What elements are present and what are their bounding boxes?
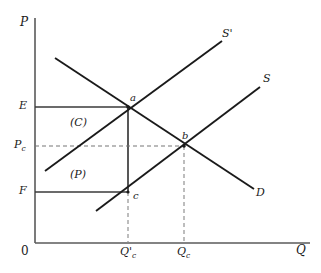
supply-demand-diagram: P Q 0 E Pc F Q'c Qc S' S D a b c (C) (P) [0,0,321,273]
curve-label-supply-shifted: S' [222,28,233,39]
price-tick-Pc: Pc [14,139,26,153]
price-tick-E: E [19,100,27,111]
marker-point-b [182,144,186,148]
price-tick-Pc-subscript: c [21,144,25,153]
y-axis-label: P [20,16,28,28]
area-label-consumer: (C) [70,117,87,128]
diagram-canvas [0,0,321,273]
quantity-tick-Qc-subscript: c [186,251,190,260]
curve-label-supply: S [263,73,271,84]
point-label-b: b [182,131,188,141]
marker-point-c [126,190,129,193]
x-axis-label: Q [296,244,306,256]
area-label-producer: (P) [70,169,86,180]
quantity-tick-Qc: Qc [177,246,190,260]
origin-label: 0 [21,245,29,257]
curve-supply [96,87,260,211]
point-label-c: c [133,191,139,201]
quantity-tick-Qc-prime-base: Q' [120,245,132,258]
quantity-tick-Qc-base: Q [177,245,186,258]
point-label-a: a [130,93,136,103]
price-tick-F: F [19,185,27,196]
marker-point-a [126,105,130,109]
curve-label-demand: D [256,187,265,198]
quantity-tick-Qc-prime: Q'c [120,246,136,260]
quantity-tick-Qc-prime-subscript: c [132,251,136,260]
